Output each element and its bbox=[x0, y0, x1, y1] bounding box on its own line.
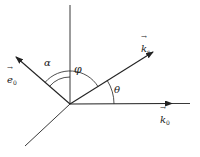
vector-diagram: → e0 → ks → k0 α φ θ bbox=[0, 0, 200, 157]
theta-label: θ bbox=[114, 85, 120, 95]
alpha-arc bbox=[50, 77, 70, 86]
k0-vector-line bbox=[70, 104, 172, 105]
lower-left-axis-line bbox=[25, 104, 70, 146]
phi-label: φ bbox=[74, 64, 82, 75]
e0-vector-line bbox=[16, 57, 70, 104]
vector-arrow-icon: → bbox=[160, 105, 166, 112]
vector-arrow-icon: → bbox=[7, 65, 13, 72]
e0-label: → e0 bbox=[7, 70, 17, 86]
ks-vector-line bbox=[70, 52, 153, 104]
ks-label: → ks bbox=[141, 39, 150, 55]
vector-arrow-icon: → bbox=[141, 34, 147, 41]
theta-arc bbox=[107, 81, 114, 104]
diagram-lines bbox=[0, 0, 200, 157]
k0-label: → k0 bbox=[160, 110, 170, 126]
phi-arc bbox=[45, 71, 98, 87]
alpha-label: α bbox=[44, 58, 51, 68]
